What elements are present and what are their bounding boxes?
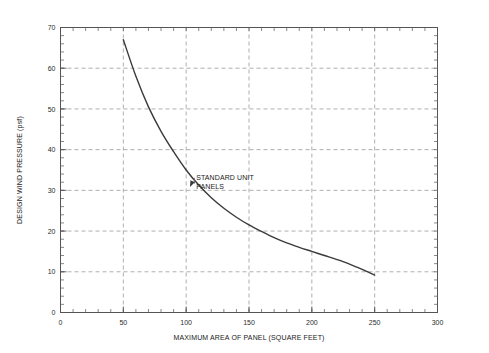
y-tick-label: 0 (52, 309, 56, 316)
chart-canvas: 050100150200250300 010203040506070 MAXIM… (0, 0, 489, 353)
wind-pressure-chart: 050100150200250300 010203040506070 MAXIM… (0, 0, 489, 353)
y-axis-title: DESIGN WIND PRESSURE (psf) (16, 116, 24, 224)
x-tick-label: 200 (306, 319, 318, 326)
y-tick-label: 10 (48, 268, 56, 275)
x-tick-label: 100 (180, 319, 192, 326)
annotation-label-line-2: PANELS (196, 183, 224, 190)
x-tick-label: 50 (119, 319, 127, 326)
x-tick-label: 250 (369, 319, 381, 326)
y-tick-label: 20 (48, 228, 56, 235)
x-tick-label: 300 (432, 319, 444, 326)
x-axis-title: MAXIMUM AREA OF PANEL (SQUARE FEET) (173, 334, 324, 342)
x-tick-label: 0 (59, 319, 63, 326)
y-tick-label: 30 (48, 187, 56, 194)
y-tick-label: 70 (48, 24, 56, 31)
y-tick-label: 50 (48, 106, 56, 113)
y-tick-label: 40 (48, 146, 56, 153)
annotation-label-line-1: STANDARD UNIT (196, 174, 254, 181)
x-tick-label: 150 (243, 319, 255, 326)
y-tick-label: 60 (48, 65, 56, 72)
